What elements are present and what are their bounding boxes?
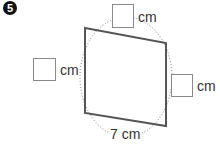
right-side-unit: cm (197, 79, 216, 93)
bottom-side-length-label: 7 cm (108, 127, 142, 141)
parallelogram-shape (85, 28, 166, 126)
top-side-answer-box[interactable] (112, 4, 134, 28)
left-side-answer-box[interactable] (33, 58, 56, 81)
right-side-answer-box[interactable] (171, 74, 193, 97)
top-side-unit: cm (138, 10, 157, 24)
left-side-unit: cm (60, 63, 79, 77)
